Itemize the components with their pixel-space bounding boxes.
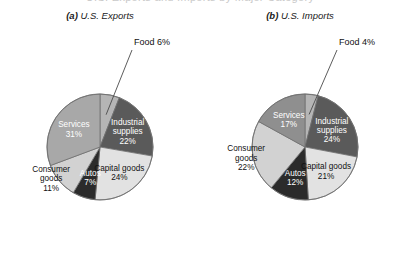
panel-us-exports: (a) U.S. Exports Food 6%Industrialsuppli…	[0, 0, 200, 253]
pie-chart-figure: U.S. Exports and Imports by Major Catego…	[0, 0, 400, 253]
callout-label-food: Food 4%	[339, 37, 375, 47]
panel-us-imports: (b) U.S. Imports Food 4%Industrialsuppli…	[200, 0, 400, 253]
callout-label-food: Food 6%	[134, 37, 170, 47]
pie-us-imports: Food 4%Industrialsupplies24%Capital good…	[200, 0, 400, 253]
slice-label-autos: Autos12%	[285, 169, 306, 187]
pie-us-exports: Food 6%Industrialsupplies22%Capital good…	[0, 0, 200, 253]
